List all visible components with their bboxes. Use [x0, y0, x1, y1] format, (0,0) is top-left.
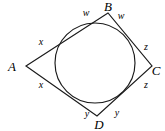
geometry-figure: A B C D w w x x z z y y	[0, 0, 165, 131]
segment-label-z-lower: z	[144, 80, 148, 90]
segment-label-z-upper: z	[144, 42, 148, 52]
vertex-label-B: B	[104, 0, 112, 13]
inscribed-circle	[55, 23, 135, 103]
segment-label-y-left: y	[85, 109, 89, 119]
quadrilateral-ABCD	[26, 13, 152, 116]
segment-label-y-right: y	[115, 108, 119, 118]
vertex-label-D: D	[94, 118, 103, 131]
vertex-label-A: A	[8, 60, 16, 73]
segment-label-w-right: w	[118, 11, 125, 21]
segment-label-x-lower: x	[39, 80, 43, 90]
figure-canvas	[0, 0, 165, 131]
segment-label-w-left: w	[83, 8, 90, 18]
vertex-label-C: C	[152, 64, 161, 77]
segment-label-x-upper: x	[39, 37, 43, 47]
